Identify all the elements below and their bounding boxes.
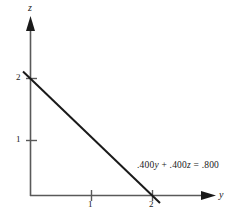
y-tick-label-2: 2: [149, 200, 154, 209]
z-axis-arrowhead: [26, 16, 35, 31]
equation-rhs: .800: [202, 160, 219, 170]
z-tick-label-1: 1: [16, 135, 21, 144]
plot-area: [0, 0, 238, 222]
y-axis-arrowhead: [201, 191, 216, 200]
z-axis-label: z: [28, 3, 32, 13]
equation-coef-z: .400: [170, 160, 187, 170]
equation-var-z: z: [187, 160, 191, 170]
y-axis-label: y: [219, 190, 223, 200]
constraint-line: [23, 72, 160, 204]
equation-equals: =: [194, 160, 200, 170]
equation-plus: +: [161, 160, 167, 170]
y-tick-label-1: 1: [88, 200, 93, 209]
z-tick-label-2: 2: [16, 73, 21, 82]
equation-var-y: y: [154, 160, 158, 170]
equation-coef-y: .400: [137, 160, 154, 170]
equation-annotation: .400y + .400z = .800: [137, 161, 219, 171]
constraint-line-figure: z y 2 1 1 2 .400y + .400z = .800: [0, 0, 238, 222]
